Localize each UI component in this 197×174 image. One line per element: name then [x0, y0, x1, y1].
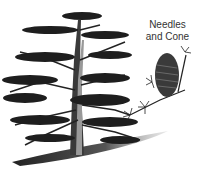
cone [155, 53, 179, 97]
caption: Needles and Cone [140, 19, 195, 43]
caption-line-2: and Cone [140, 31, 195, 43]
cedar-illustration: Needles and Cone [0, 0, 197, 174]
trunk [70, 20, 84, 155]
caption-line-1: Needles [140, 19, 195, 31]
foliage [2, 12, 140, 144]
